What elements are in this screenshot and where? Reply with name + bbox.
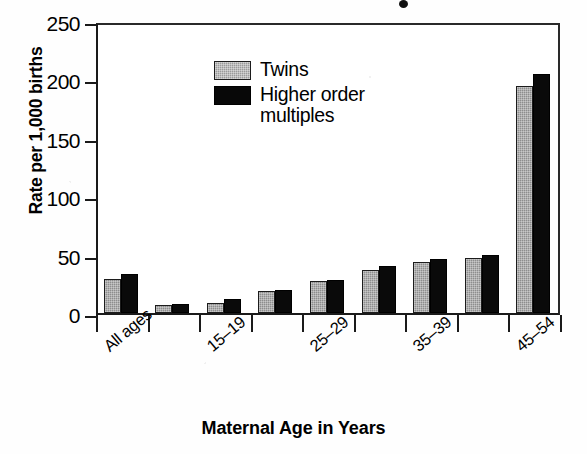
bar-group — [104, 274, 138, 313]
bar-higher-order — [172, 304, 189, 313]
x-tick-label: 35–39 — [409, 312, 455, 355]
bar-chart-figure: Rate per 1,000 births 250200150100500 Tw… — [0, 0, 587, 454]
bar-group — [155, 304, 189, 313]
x-tick-mark — [199, 315, 201, 332]
y-tick-mark — [85, 258, 98, 260]
legend-item-twins: Twins — [214, 59, 365, 81]
x-tick-label: 25–29 — [306, 312, 352, 355]
x-axis-title: Maternal Age in Years — [0, 418, 587, 439]
bar-twins — [104, 279, 121, 313]
plot-area: 250200150100500 Twins Higher ordermultip… — [96, 23, 560, 315]
y-tick-label: 100 — [28, 187, 80, 211]
bar-twins — [362, 270, 379, 313]
bar-higher-order — [121, 274, 138, 313]
legend-item-higher-order-multiples: Higher ordermultiples — [214, 84, 365, 127]
bar-twins — [516, 86, 533, 313]
bar-twins — [413, 262, 430, 313]
legend-label-higher-order-line2: multiples — [260, 104, 334, 126]
legend-swatch-twins-icon — [214, 61, 251, 80]
y-tick-label: 0 — [28, 304, 80, 328]
bar-twins — [310, 281, 327, 313]
bar-group — [310, 280, 344, 313]
bar-higher-order — [327, 280, 344, 313]
bar-twins — [465, 258, 482, 313]
x-tick-mark — [560, 315, 562, 332]
bar-higher-order — [379, 266, 396, 313]
bar-group — [465, 255, 499, 313]
legend-label-higher-order: Higher ordermultiples — [260, 84, 365, 127]
y-tick-label: 250 — [28, 12, 80, 36]
y-tick-mark — [85, 141, 98, 143]
y-tick-mark — [85, 199, 98, 201]
bar-higher-order — [275, 290, 292, 313]
bar-group — [413, 259, 447, 313]
bar-twins — [155, 305, 172, 313]
x-tick-mark — [302, 315, 304, 332]
y-tick-mark — [85, 24, 98, 26]
x-tick-mark — [96, 315, 98, 332]
bar-group — [516, 74, 550, 313]
x-tick-mark — [405, 315, 407, 332]
bar-group — [207, 299, 241, 313]
bar-group — [362, 266, 396, 313]
y-tick-mark — [85, 82, 98, 84]
x-tick-mark — [251, 315, 253, 332]
y-tick-label: 50 — [28, 246, 80, 270]
legend-label-twins: Twins — [260, 59, 308, 81]
bar-twins — [258, 291, 275, 313]
legend: Twins Higher ordermultiples — [214, 59, 365, 130]
bar-higher-order — [430, 259, 447, 313]
x-tick-mark — [508, 315, 510, 332]
y-tick-label: 200 — [28, 70, 80, 94]
bar-twins — [207, 303, 224, 314]
legend-swatch-higher-order-icon — [214, 86, 251, 105]
legend-label-higher-order-line1: Higher order — [260, 83, 365, 105]
x-tick-mark — [457, 315, 459, 332]
cropped-title-artifact — [399, 0, 408, 8]
bar-higher-order — [482, 255, 499, 313]
bar-group — [258, 290, 292, 313]
bar-higher-order — [224, 299, 241, 313]
x-tick-mark — [354, 315, 356, 332]
bar-higher-order — [533, 74, 550, 313]
x-tick-label: 15–19 — [203, 312, 249, 355]
y-tick-label: 150 — [28, 129, 80, 153]
x-tick-label: 45–54 — [512, 312, 558, 355]
